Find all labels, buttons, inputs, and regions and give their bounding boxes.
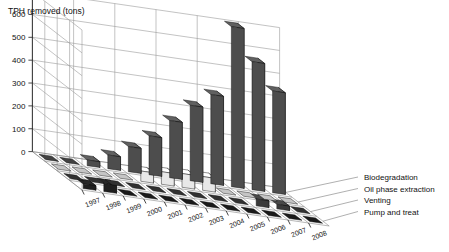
- bar-pump-and-treat-2008: [303, 216, 323, 223]
- bar-venting-2005: [229, 197, 249, 204]
- bar-venting-2003: [187, 191, 207, 198]
- bar-pump-and-treat-2002: [179, 198, 199, 205]
- y-tick-label: 100: [12, 125, 26, 134]
- bar-oil-phase-extraction-2000: [113, 173, 133, 180]
- bar-oil-phase-extraction-1997: [51, 164, 71, 171]
- bar-venting-2004: [208, 194, 228, 201]
- y-tick-labels: 0100200300400500600700: [12, 0, 26, 157]
- bar-venting-2000: [126, 182, 146, 189]
- bar-pump-and-treat-2000: [138, 192, 158, 199]
- bar-pump-and-treat-1999: [117, 189, 137, 196]
- chart-svg: 0100200300400500600700 19971998199920002…: [0, 0, 449, 252]
- bar-venting-2001: [146, 185, 166, 192]
- bar-biodegradation-2005: [204, 89, 224, 185]
- bar-pump-and-treat-2005: [241, 207, 261, 214]
- bar-biodegradation-2001: [121, 141, 141, 173]
- bar-biodegradation-2000: [101, 150, 121, 171]
- x-category-label: 2006: [269, 223, 286, 235]
- bar-pump-and-treat-2006: [262, 210, 282, 217]
- y-axis-title: TPH removed (tons): [8, 6, 85, 16]
- x-category-label: 1999: [125, 202, 142, 214]
- series-label-pump-and-treat: Pump and treat: [364, 208, 419, 217]
- bar-biodegradation-1999: [80, 155, 100, 168]
- x-category-label: 2004: [228, 217, 245, 229]
- x-category-label: 2001: [166, 208, 183, 220]
- bar-biodegradation-2006: [224, 21, 244, 188]
- x-category-label: 1998: [105, 199, 122, 211]
- x-category-label: 2000: [146, 205, 163, 217]
- y-tick-label: 200: [12, 102, 26, 111]
- bar-venting-1997: [64, 173, 84, 180]
- y-tick-label: 0: [21, 148, 26, 157]
- y-tick-label: 500: [12, 33, 26, 42]
- x-category-label: 1997: [84, 196, 101, 208]
- y-tick-label: 300: [12, 79, 26, 88]
- bar-biodegradation-2007: [245, 56, 265, 191]
- chart-container: 0100200300400500600700 19971998199920002…: [0, 0, 449, 252]
- bar-biodegradation-1997: [39, 154, 59, 161]
- x-category-label: 2003: [208, 214, 225, 226]
- series-label-biodegradation: Biodegradation: [364, 173, 418, 182]
- bars-layer: [39, 21, 323, 223]
- x-category-label: 2008: [311, 229, 328, 241]
- bar-venting-2002: [167, 188, 187, 195]
- bar-pump-and-treat-2003: [200, 201, 220, 208]
- bar-oil-phase-extraction-2005: [216, 188, 236, 195]
- bar-venting-2008: [290, 206, 310, 213]
- bar-pump-and-treat-2007: [282, 213, 302, 220]
- bar-pump-and-treat-2001: [159, 195, 179, 202]
- bar-oil-phase-extraction-1999: [93, 170, 113, 177]
- series-labels: BiodegradationOil phase extractionVentin…: [286, 173, 435, 221]
- bar-pump-and-treat-2004: [220, 204, 240, 211]
- series-label-venting: Venting: [364, 196, 391, 205]
- series-label-oil-phase-extraction: Oil phase extraction: [364, 185, 435, 194]
- x-category-label: 2007: [290, 226, 307, 238]
- x-category-label: 2002: [187, 211, 204, 223]
- y-tick-label: 400: [12, 56, 26, 65]
- x-category-label: 2005: [249, 220, 266, 232]
